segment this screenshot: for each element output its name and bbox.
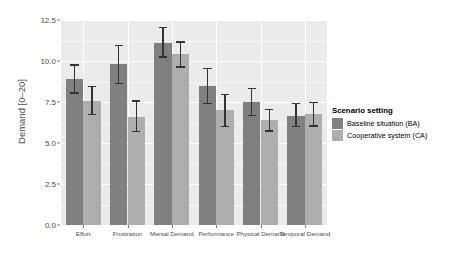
legend-label: Cooperative system (CA) [347,131,427,140]
x-axis-tick-mark [128,225,129,228]
error-bar [132,100,140,132]
error-bar-cap-bottom [176,66,184,67]
error-bar-cap-top [292,103,300,104]
legend-label: Baseline situation (BA) [347,119,420,128]
error-bar-cap-bottom [132,131,140,132]
legend: Scenario setting Baseline situation (BA)… [332,106,456,142]
x-axis-tick-label: Frustration [113,230,143,237]
gridline-horizontal [61,61,327,62]
error-bar-cap-top [159,27,167,28]
bar [83,101,101,225]
error-bar [176,41,184,67]
y-axis-tick-label: 7.5 [45,98,56,107]
gridline-horizontal [61,20,327,21]
error-bar-cap-bottom [221,126,229,127]
error-bar-stem [91,86,92,116]
y-axis-title: Demand [0–20] [16,47,27,177]
error-bar-stem [136,100,137,132]
bar [66,79,84,225]
y-axis-tick-label: 10.0 [40,57,56,66]
y-axis-tick-mark [57,61,60,62]
x-axis-tick-label: Mental Demand [150,230,194,237]
error-bar-stem [269,109,270,132]
plot-panel [61,20,327,225]
error-bar-cap-top [115,45,123,46]
error-bar-cap-bottom [309,125,317,126]
bar [199,86,217,225]
error-bar-stem [313,102,314,127]
error-bar-cap-top [203,68,211,69]
x-axis-tick-mark [305,225,306,228]
bar [261,120,279,225]
x-axis-tick-mark [216,225,217,228]
y-axis-tick-label: 5.0 [45,139,56,148]
bar [110,64,128,225]
error-bar [221,94,229,128]
legend-item[interactable]: Baseline situation (BA) [332,118,456,129]
error-bar-stem [180,41,181,67]
y-axis-tick-label: 0.0 [45,221,56,230]
bar [128,117,146,225]
error-bar-stem [207,68,208,105]
y-axis-tick-label: 12.5 [40,16,56,25]
error-bar [292,103,300,128]
x-axis-tick-label: Physical Demand [236,230,284,237]
legend-title: Scenario setting [332,106,456,115]
legend-items: Baseline situation (BA)Cooperative syste… [332,118,456,141]
x-axis-tick-label: Effort [76,230,91,237]
gridline-horizontal [61,102,327,103]
y-axis-tick-labels: 0.02.55.07.510.012.5 [30,0,56,260]
error-bar-cap-top [265,109,273,110]
gridline-horizontal-minor [61,41,327,42]
bar-chart: Demand [0–20] 0.02.55.07.510.012.5 Effor… [0,0,457,260]
error-bar-cap-bottom [88,114,96,115]
y-axis-tick-mark [57,143,60,144]
y-axis-tick-mark [57,102,60,103]
error-bar [88,86,96,116]
y-axis-tick-mark [57,225,60,226]
x-axis-tick-mark [172,225,173,228]
bar [154,43,172,225]
error-bar-cap-top [70,64,78,65]
error-bar-cap-bottom [248,115,256,116]
error-bar-cap-top [221,94,229,95]
error-bar-stem [295,103,296,128]
x-axis-tick-label: Temporal Demand [280,230,331,237]
legend-swatch-icon [332,118,343,129]
error-bar-cap-top [176,41,184,42]
error-bar-cap-top [309,102,317,103]
error-bar-cap-top [88,86,96,87]
error-bar-stem [224,94,225,128]
error-bar-cap-bottom [115,83,123,84]
error-bar-cap-top [132,100,140,101]
error-bar-stem [74,64,75,94]
error-bar-stem [251,88,252,116]
error-bar [203,68,211,105]
bar [287,116,305,225]
error-bar [309,102,317,127]
error-bar-cap-top [248,88,256,89]
error-bar [248,88,256,116]
legend-item[interactable]: Cooperative system (CA) [332,130,456,141]
error-bar [159,27,167,58]
error-bar-cap-bottom [203,103,211,104]
x-axis-tick-label: Performance [198,230,233,237]
bar [172,54,190,225]
x-axis-tick-mark [261,225,262,228]
error-bar-cap-bottom [70,92,78,93]
error-bar-cap-bottom [292,126,300,127]
error-bar [70,64,78,94]
error-bar-cap-bottom [265,130,273,131]
y-axis-tick-mark [57,184,60,185]
bar [305,114,323,225]
gridline-horizontal-minor [61,82,327,83]
error-bar-stem [118,45,119,84]
x-axis-tick-mark [83,225,84,228]
error-bar-stem [162,27,163,58]
error-bar [115,45,123,84]
error-bar [265,109,273,132]
bar [216,110,234,225]
bar [243,102,261,225]
y-axis-tick-mark [57,20,60,21]
legend-swatch-icon [332,130,343,141]
